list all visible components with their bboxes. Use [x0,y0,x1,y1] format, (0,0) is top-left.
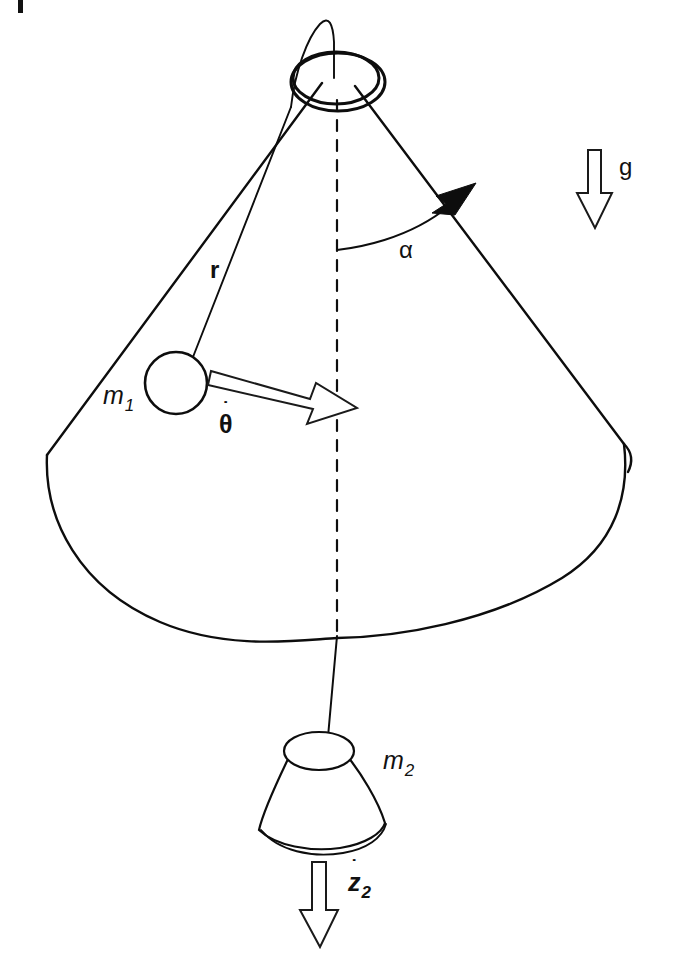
label-mass1-symbol: m [103,381,124,409]
z-overdot: ˙ [351,857,357,876]
label-mass2: m2 [383,748,413,773]
label-z-subscript: 2 [362,883,371,902]
label-z-dot-group: ˙z [348,870,361,895]
mass1-circle [145,352,207,414]
label-mass2-subscript: 2 [405,761,414,780]
label-mass1: m1 [103,383,133,408]
string-to-mass2 [327,636,337,748]
figure-root: m1 m2 r α g ˙θ ˙z2 [0,0,673,960]
label-radius: r [210,258,219,282]
z-dot-2-arrow [300,862,338,947]
label-alpha-angle: α [399,238,413,262]
string-to-mass1 [193,107,291,357]
label-theta-dot: ˙θ [219,412,233,437]
mass2-top-ellipse [284,732,354,770]
cone-base-arc-right [337,444,625,638]
label-z-dot-2: ˙z2 [348,870,370,895]
diagram-canvas [0,0,673,960]
label-mass2-symbol: m [383,746,404,774]
label-theta-dot-group: ˙θ [219,412,233,437]
label-mass1-subscript: 1 [125,396,134,415]
page-edge-mark [18,0,23,13]
label-gravity: g [619,155,632,179]
cone-right-slant [355,86,624,444]
cone-base-arc-left [47,455,337,642]
gravity-arrow [577,150,612,228]
apex-ring-inner [293,52,379,104]
theta-overdot: ˙ [223,399,229,418]
